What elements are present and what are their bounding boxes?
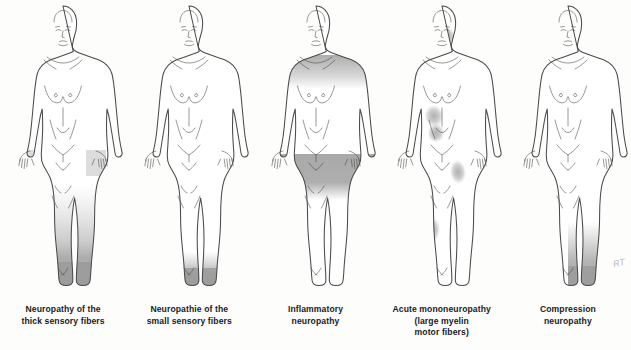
caption-line: motor fibers) [380, 327, 504, 339]
body-diagram-compression-neuropathy [505, 0, 631, 296]
panel-caption-acute-mononeuropathy: Acute mononeuropathy(large myelinmotor f… [380, 304, 504, 339]
caption-line: small sensory fibers [127, 316, 251, 328]
figure-panel-acute-mononeuropathy: Acute mononeuropathy(large myelinmotor f… [379, 0, 505, 350]
panel-caption-compression-neuropathy: Compressionneuropathy [506, 304, 630, 327]
body-diagram-inflammatory-neuropathy [253, 0, 379, 296]
caption-line: Neuropathy of the [1, 304, 125, 316]
caption-line: (large myelin [380, 316, 504, 328]
caption-line: Acute mononeuropathy [380, 304, 504, 316]
figure-panel-compression-neuropathy: Compressionneuropathy RT [505, 0, 631, 350]
panel-caption-thick-sensory-fibers: Neuropathy of thethick sensory fibers [1, 304, 125, 327]
figure-panel-small-sensory-fibers: Neuropathie of thesmall sensory fibers [126, 0, 252, 350]
panel-caption-inflammatory-neuropathy: Inflammatoryneuropathy [254, 304, 378, 327]
body-diagram-small-sensory-fibers [126, 0, 252, 296]
caption-line: Inflammatory [254, 304, 378, 316]
caption-line: thick sensory fibers [1, 316, 125, 328]
body-diagram-acute-mononeuropathy [379, 0, 505, 296]
figure-panel-thick-sensory-fibers: Neuropathy of thethick sensory fibers [0, 0, 126, 350]
caption-line: neuropathy [254, 316, 378, 328]
panel-caption-small-sensory-fibers: Neuropathie of thesmall sensory fibers [127, 304, 251, 327]
caption-line: neuropathy [506, 316, 630, 328]
neuropathy-figure-strip: Neuropathy of thethick sensory fibers Ne… [0, 0, 631, 350]
caption-line: Compression [506, 304, 630, 316]
figure-panel-inflammatory-neuropathy: Inflammatoryneuropathy [252, 0, 378, 350]
caption-line: Neuropathie of the [127, 304, 251, 316]
body-diagram-thick-sensory-fibers [0, 0, 126, 296]
